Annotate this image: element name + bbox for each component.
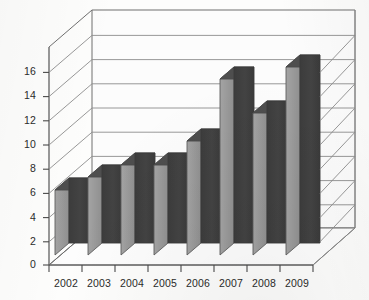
ytick-label-6: 6 [4,186,36,198]
bar-2007[interactable] [220,67,254,255]
bar-2006-front [201,129,221,243]
ytick-label-16: 16 [4,65,36,77]
bar-2009-side [286,55,300,255]
bar-2004-front [135,153,155,243]
ytick-label-14: 14 [4,89,36,101]
gridline-depth-14 [49,60,92,97]
bar-2003-side [88,165,102,255]
bar-2005-front [168,153,188,243]
bar-2008[interactable] [253,101,287,255]
bar-2005-side [154,153,168,255]
category-axis [49,265,313,272]
bar-2002[interactable] [55,178,89,255]
bar-2004[interactable] [121,153,155,255]
category-label-2003: 2003 [87,277,111,289]
chart-page: 0 2 4 6 8 10 12 14 16 2002 2003 2004 200… [0,0,369,300]
bar-2003[interactable] [88,165,122,255]
ytick-label-2: 2 [4,235,36,247]
category-label-2002: 2002 [54,277,78,289]
value-axis-ticks [43,72,49,265]
gridline-depth-12 [49,84,92,121]
bar-2008-front [267,101,287,243]
category-label-2008: 2008 [252,277,276,289]
bar-2006[interactable] [187,129,221,255]
ytick-label-4: 4 [4,211,36,223]
bar-2007-front [234,67,254,243]
ytick-label-12: 12 [4,114,36,126]
category-label-2004: 2004 [120,277,144,289]
gridline-depth-10 [49,108,92,145]
category-label-2005: 2005 [153,277,177,289]
bar-2003-front [102,165,122,243]
ytick-label-0: 0 [4,258,36,270]
bar-2004-side [121,153,135,255]
gridline-depth-8 [49,132,92,169]
bar-2006-side [187,129,201,255]
ytick-label-8: 8 [4,162,36,174]
ytick-label-10: 10 [4,138,36,150]
bar-2009-front [300,55,320,243]
chart-plot-area [0,0,369,300]
bar-2009[interactable] [286,55,320,255]
bar-2008-side [253,101,267,255]
category-label-2006: 2006 [186,277,210,289]
category-label-2007: 2007 [219,277,243,289]
category-label-2009: 2009 [285,277,309,289]
bar-2002-front [69,178,89,243]
bar-2005[interactable] [154,153,188,255]
bar-2007-side [220,67,234,255]
